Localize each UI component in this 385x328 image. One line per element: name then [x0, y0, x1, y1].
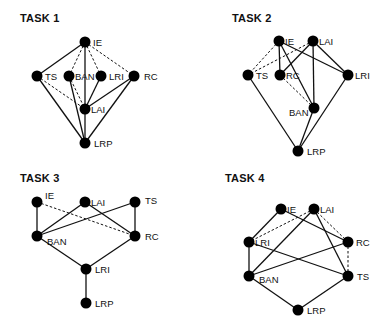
node-rc: [343, 237, 354, 248]
node-label-lri: LRI: [255, 237, 270, 248]
node-lrp: [81, 298, 92, 309]
node-label-lrp: LRP: [307, 146, 325, 157]
node-ts: [243, 70, 254, 81]
node-label-rc: RC: [144, 71, 158, 82]
node-label-lrp: LRP: [307, 305, 325, 316]
node-label-ban: BAN: [47, 236, 67, 247]
node-lai: [80, 104, 91, 115]
node-ts: [343, 271, 354, 282]
node-label-lai: LAI: [91, 197, 105, 208]
node-label-ie: IE: [287, 204, 296, 215]
task-1-graph: IETSBANLRIRCLAILRP: [32, 37, 158, 150]
node-label-lai: LAI: [319, 36, 333, 47]
node-label-lrp: LRP: [95, 298, 113, 309]
node-label-rc: RC: [356, 237, 370, 248]
node-rc: [129, 71, 140, 82]
edge-lai-ban: [313, 41, 314, 108]
node-ban: [309, 103, 320, 114]
node-label-lri: LRI: [95, 264, 110, 275]
node-lri: [81, 264, 92, 275]
task-4-graph: IELAILRIRCBANTSLRP: [244, 204, 370, 317]
node-label-ban: BAN: [75, 71, 95, 82]
edge-rc-lri: [86, 236, 135, 269]
edge-lai-ban: [37, 202, 85, 236]
node-label-lai: LAI: [91, 104, 105, 115]
node-lai: [309, 204, 320, 215]
node-lri: [343, 70, 354, 81]
node-ie: [80, 37, 91, 48]
node-label-ie: IE: [93, 37, 102, 48]
node-lri: [96, 71, 107, 82]
node-ts: [32, 71, 43, 82]
node-label-rc: RC: [145, 231, 159, 242]
edge-ts-lrp: [37, 76, 85, 143]
node-ban: [32, 231, 43, 242]
task-3-graph: IELAITSBANRCLRILRP: [32, 190, 159, 309]
node-ie: [32, 197, 43, 208]
node-label-ts: TS: [256, 70, 268, 81]
node-label-ie: IE: [285, 36, 294, 47]
node-ts: [130, 197, 141, 208]
node-ban: [244, 271, 255, 282]
node-ie: [274, 36, 285, 47]
task-2-graph: IELAITSRCLRIBANLRP: [243, 36, 370, 158]
node-label-ts: TS: [145, 195, 157, 206]
node-lri: [244, 237, 255, 248]
node-ban: [64, 71, 75, 82]
node-label-ts: TS: [45, 71, 57, 82]
node-label-lri: LRI: [109, 71, 124, 82]
node-label-ie: IE: [45, 190, 54, 201]
node-rc: [130, 231, 141, 242]
node-label-lrp: LRP: [94, 138, 112, 149]
graph-canvas: IETSBANLRIRCLAILRPIELAITSRCLRIBANLRPIELA…: [0, 0, 385, 328]
node-label-ban: BAN: [259, 274, 279, 285]
node-label-lri: LRI: [355, 70, 370, 81]
node-lai: [308, 36, 319, 47]
node-ie: [276, 204, 287, 215]
node-lrp: [293, 305, 304, 316]
node-lai: [80, 197, 91, 208]
node-lrp: [293, 146, 304, 157]
node-label-ban: BAN: [289, 107, 309, 118]
node-rc: [275, 70, 286, 81]
node-lrp: [80, 138, 91, 149]
node-label-lai: LAI: [320, 204, 334, 215]
node-label-rc: RC: [286, 70, 300, 81]
node-label-ts: TS: [357, 271, 369, 282]
